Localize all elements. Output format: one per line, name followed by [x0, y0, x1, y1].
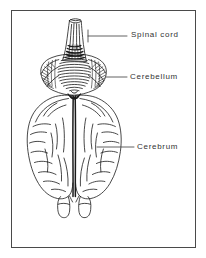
- brain-diagram-figure: Spinal cord Cerebellum Cerebrum: [0, 0, 206, 258]
- spinal-cord-structure: [63, 19, 87, 62]
- leader-lines: [88, 30, 134, 147]
- label-spinal-cord: Spinal cord: [131, 31, 179, 39]
- label-cerebrum: Cerebrum: [137, 143, 178, 151]
- label-cerebellum: Cerebellum: [130, 73, 178, 81]
- olfactory-bulbs-structure: [58, 196, 91, 218]
